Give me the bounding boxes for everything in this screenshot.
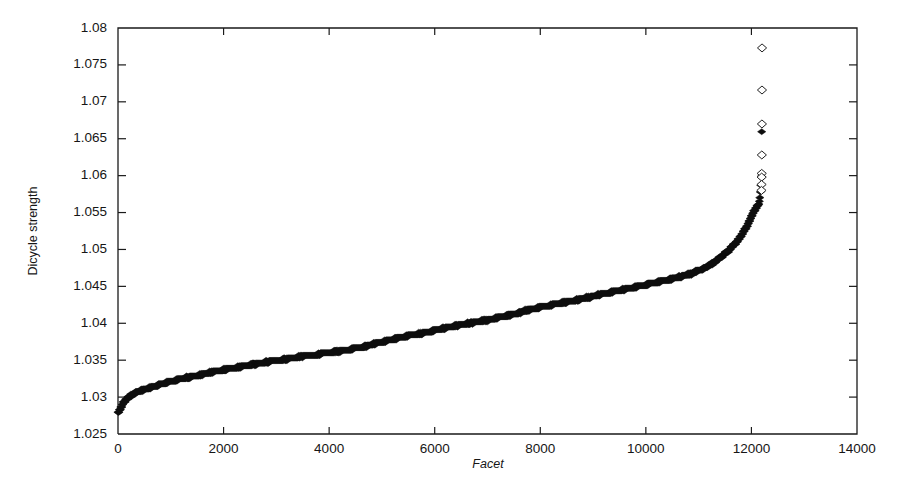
x-tick-label: 2000 [209,441,239,456]
x-tick-label: 12000 [733,441,771,456]
figure-background [0,0,902,484]
y-tick-label: 1.03 [81,389,107,404]
y-tick-label: 1.05 [81,241,107,256]
scatter-plot-figure: 1.0251.031.0351.041.0451.051.0551.061.06… [0,0,902,484]
x-tick-label: 6000 [420,441,450,456]
x-axis-title: Facet [472,457,504,471]
x-tick-label: 10000 [627,441,665,456]
y-tick-label: 1.025 [73,426,107,441]
y-tick-label: 1.08 [81,20,107,35]
y-tick-label: 1.055 [73,204,107,219]
x-tick-label: 8000 [525,441,555,456]
y-tick-label: 1.045 [73,278,107,293]
x-tick-label: 14000 [838,441,876,456]
y-tick-label: 1.07 [81,93,107,108]
y-tick-label: 1.06 [81,167,107,182]
x-tick-label: 0 [114,441,122,456]
y-tick-label: 1.065 [73,130,107,145]
x-tick-label: 4000 [314,441,344,456]
y-tick-label: 1.035 [73,352,107,367]
y-axis-title: Dicycle strength [26,186,40,275]
plot-canvas: 1.0251.031.0351.041.0451.051.0551.061.06… [0,0,902,484]
y-tick-label: 1.075 [73,56,107,71]
y-tick-label: 1.04 [81,315,108,330]
